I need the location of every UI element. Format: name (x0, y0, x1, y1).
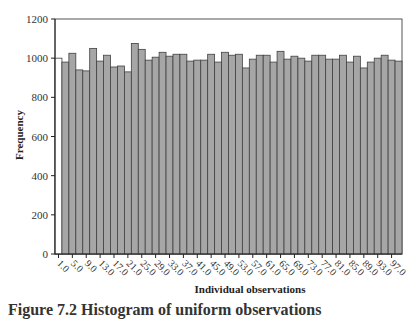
x-axis-label: Individual observations (150, 283, 350, 295)
histogram-bar (367, 62, 374, 254)
histogram-bar (145, 60, 152, 254)
histogram-bar (69, 53, 76, 254)
histogram-bar (97, 61, 104, 254)
histogram-bar (381, 55, 388, 254)
histogram-bar (263, 55, 270, 254)
histogram-bar (326, 59, 333, 254)
histogram-bar (353, 56, 360, 254)
histogram-bar (388, 60, 395, 254)
histogram-bar (229, 55, 236, 254)
histogram-bar (208, 54, 215, 254)
histogram-bar (83, 71, 90, 254)
histogram-bar (152, 57, 159, 254)
histogram-bar (159, 52, 166, 254)
histogram-bar (360, 68, 367, 254)
histogram-bar (55, 58, 62, 254)
histogram-bar (173, 54, 180, 254)
histogram-bar (131, 43, 138, 254)
histogram-bar (340, 55, 347, 254)
histogram-bar (215, 62, 222, 254)
y-tick-label: 0 (43, 248, 49, 260)
histogram-bar (166, 56, 173, 254)
histogram-bar (242, 68, 249, 254)
x-tick-label: 5.0 (69, 258, 86, 275)
y-tick-label: 1000 (26, 52, 49, 64)
y-axis-label: Frequency (13, 95, 27, 175)
y-tick-label: 800 (32, 91, 49, 103)
histogram-bar (291, 56, 298, 254)
histogram-bar (235, 54, 242, 254)
y-tick-label: 600 (32, 131, 49, 143)
y-tick-label: 200 (32, 209, 49, 221)
histogram-bar (180, 54, 187, 254)
x-tick-label: 9.0 (83, 258, 100, 275)
histogram-bar (277, 51, 284, 254)
histogram-bar (305, 61, 312, 254)
histogram-bar (395, 61, 402, 254)
histogram-bar (111, 67, 118, 254)
histogram-bar (222, 52, 229, 254)
histogram-bar (319, 55, 326, 254)
histogram-bar (284, 59, 291, 254)
histogram-bar (333, 59, 340, 254)
histogram-bar (249, 59, 256, 254)
histogram-bar (117, 66, 124, 254)
figure-caption: Figure 7.2 Histogram of uniform observat… (8, 301, 321, 319)
histogram-bar (104, 55, 111, 254)
histogram-bar (76, 70, 83, 254)
histogram-bar (138, 49, 145, 254)
histogram-bar (346, 62, 353, 254)
y-tick-label: 1200 (26, 13, 49, 25)
histogram-bar (90, 48, 97, 254)
histogram-bar (270, 62, 277, 254)
histogram-bar (256, 55, 263, 254)
histogram-bar (312, 55, 319, 254)
histogram-bar (62, 62, 69, 254)
histogram-bar (374, 58, 381, 254)
x-tick-label: 97.0 (388, 258, 408, 278)
histogram-bar (124, 72, 131, 254)
histogram-bar (194, 60, 201, 254)
histogram-bar (201, 60, 208, 254)
histogram-bar (187, 61, 194, 254)
histogram-bar (298, 58, 305, 254)
y-tick-label: 400 (32, 170, 49, 182)
x-tick-label: 1.0 (55, 258, 72, 275)
